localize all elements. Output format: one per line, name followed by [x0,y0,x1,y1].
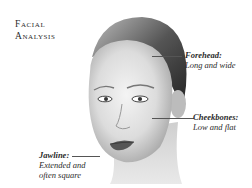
title-line-2: Analysis [15,31,56,43]
forehead-description: Long and wide [185,60,236,70]
forehead-term: Forehead: [185,50,222,60]
annotation-cheekbones: Cheekbones: Low and flat [193,112,238,132]
cheekbones-description: Low and flat [193,122,238,132]
jawline-term: Jawline: [39,150,69,160]
page-title: Facial Analysis [15,19,56,42]
title-line-1: Facial [15,19,56,31]
jawline-description-1: Extended and [39,160,86,170]
face-portrait-image [82,12,192,184]
cheekbones-term: Cheekbones: [193,112,238,122]
cheekbones-leader-line [152,118,194,119]
jawline-description-2: often square [39,170,86,180]
forehead-leader-line [152,56,182,57]
annotation-jawline: Jawline: Extended and often square [39,150,86,180]
annotation-forehead: Forehead: Long and wide [185,50,236,70]
